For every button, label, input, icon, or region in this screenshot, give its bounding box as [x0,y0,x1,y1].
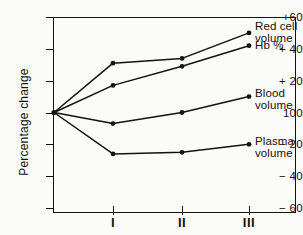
y-axis-tick [46,113,54,114]
series-label: Blood volume [255,88,293,111]
y-axis-tick [46,176,54,177]
y-axis-tick-label: + 20 [259,75,303,87]
y-axis-tick [46,49,54,50]
y-axis-tick [46,144,54,145]
x-axis-tick [182,206,183,215]
x-axis-tick [249,206,250,215]
series-label: Plasma volume [255,136,294,159]
x-axis-tick-label: II [178,215,186,230]
x-axis-tick-label: III [243,215,255,230]
x-axis-tick-label: I [111,215,115,230]
x-axis-tick [113,206,114,215]
chart-figure: Percentage change +60+ 40+ 20100− 20− 40… [0,0,303,235]
y-axis-title: Percentage change [17,47,31,197]
series-label: Hb % [255,40,284,52]
y-axis-tick [46,17,54,18]
y-axis-tick [46,81,54,82]
y-axis-tick [46,208,54,209]
y-axis-tick-label: − 60 [259,202,303,214]
y-axis-tick-label: − 40 [259,170,303,182]
